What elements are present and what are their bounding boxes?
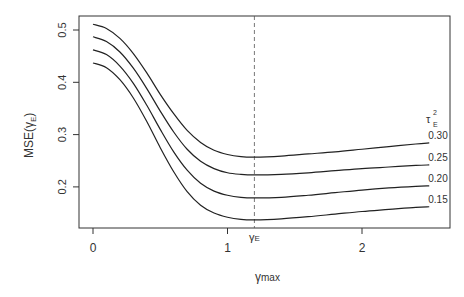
curve-label-0.20: 0.20 xyxy=(428,173,448,184)
curve-label-0.15: 0.15 xyxy=(428,194,448,205)
series-curve-0.15 xyxy=(93,63,429,220)
legend-title: τ2E xyxy=(426,114,430,124)
x-tick-label: 2 xyxy=(359,241,366,255)
series-curve-0.30 xyxy=(93,24,429,157)
series-curve-0.20 xyxy=(93,50,429,198)
x-tick-label: 0 xyxy=(90,241,97,255)
x-axis: 012 xyxy=(90,228,366,255)
y-axis: 0.20.30.40.5 xyxy=(56,22,79,194)
curve-label-0.30: 0.30 xyxy=(428,130,448,141)
series-curves xyxy=(93,24,429,220)
curve-label-0.25: 0.25 xyxy=(428,152,448,163)
series-curve-0.25 xyxy=(93,37,429,175)
curve-labels: 0.300.250.200.15 xyxy=(428,130,448,205)
x-axis-label: γmax xyxy=(255,270,280,284)
gamma-e-label: γE xyxy=(249,231,260,243)
y-axis-label: MSE(γE) xyxy=(22,113,38,158)
y-tick-label: 0.4 xyxy=(56,75,68,90)
y-tick-label: 0.5 xyxy=(56,22,68,37)
chart: 0.20.30.40.5 012 0.300.250.200.15 xyxy=(0,0,464,297)
x-tick-label: 1 xyxy=(224,241,231,255)
y-tick-label: 0.3 xyxy=(56,127,68,142)
plot-frame xyxy=(79,16,450,228)
y-tick-label: 0.2 xyxy=(56,179,68,194)
